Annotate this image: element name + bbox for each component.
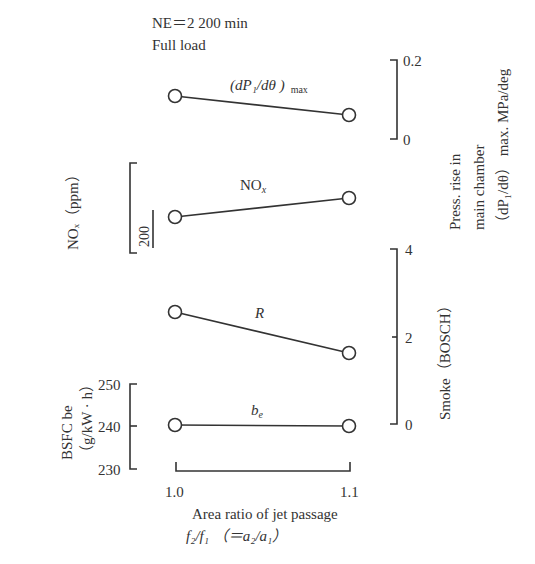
press-rise-tick-0.2: 0.2 [403, 53, 422, 69]
condition-load: Full load [152, 37, 206, 53]
dp-point-1.0 [169, 90, 182, 103]
svg-text:BSFC be: BSFC be [59, 405, 75, 460]
smoke-series-label: R [254, 305, 264, 321]
smoke-point-1.0 [169, 306, 182, 319]
bsfc-tick-230: 230 [98, 462, 121, 478]
nox-scale-bar-label: 200 [137, 226, 152, 247]
bsfc-axis-label: BSFC be （g/kW · h） [59, 377, 95, 460]
x-tick-1.1: 1.1 [340, 484, 359, 500]
smoke-point-1.1 [343, 347, 356, 360]
nox-series-line [175, 198, 349, 217]
nox-axis-label: NOₓ（ppm） [65, 167, 81, 250]
x-axis [176, 462, 350, 471]
smoke-tick-4: 4 [405, 242, 413, 258]
nox-series-label: NOx [240, 177, 267, 195]
bsfc-point-1.1 [343, 420, 356, 433]
x-axis-label-line2: f₂/f₁ （＝a₂/a₁） [186, 528, 287, 544]
condition-speed: NE＝2 200 min [152, 15, 248, 31]
bsfc-point-1.0 [169, 419, 182, 432]
nox-axis-bracket [130, 163, 137, 253]
press-rise-axis [390, 60, 397, 139]
press-rise-tick-0: 0 [403, 132, 411, 148]
svg-text:（g/kW · h）: （g/kW · h） [79, 377, 95, 460]
bsfc-series-label: be [251, 402, 264, 420]
dp-series-line [175, 96, 349, 115]
chart-canvas: NE＝2 200 min Full load (dP₁/dθ )max 0.2 … [0, 0, 535, 564]
svg-text:（dP₁/dθ） max. MPa/deg: （dP₁/dθ） max. MPa/deg [495, 68, 511, 230]
press-rise-axis-label: Press. rise in main chamber （dP₁/dθ） max… [447, 68, 511, 230]
nox-point-1.1 [343, 192, 356, 205]
nox-point-1.0 [169, 211, 182, 224]
svg-text:main chamber: main chamber [471, 145, 487, 230]
bsfc-tick-240: 240 [98, 419, 121, 435]
smoke-axis-label: Smoke（BOSCH） [437, 298, 453, 420]
bsfc-tick-250: 250 [98, 377, 121, 393]
dp-series-label: (dP₁/dθ )max [230, 77, 308, 95]
dp-point-1.1 [343, 109, 356, 122]
svg-text:Press. rise in: Press. rise in [447, 153, 463, 230]
x-tick-1.0: 1.0 [165, 484, 184, 500]
smoke-tick-2: 2 [405, 330, 413, 346]
x-axis-label-line1: Area ratio of jet passage [192, 506, 338, 522]
bsfc-series-line [175, 425, 349, 426]
smoke-tick-0: 0 [405, 417, 413, 433]
